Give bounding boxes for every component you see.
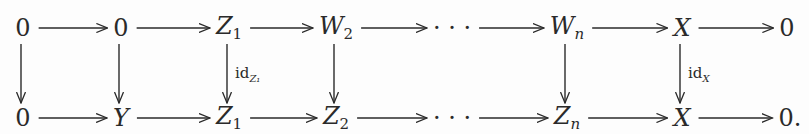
node-subscript: n [575, 25, 585, 43]
node-symbol: Z [323, 102, 340, 130]
node-symbol: · · · [433, 104, 471, 132]
node-symbol: 0 [779, 14, 794, 42]
node-symbol: 0 [15, 14, 30, 42]
diagram-node-b7: 0. [779, 106, 802, 130]
diagram-node-t0: 0 [15, 16, 30, 40]
node-symbol: · · · [433, 14, 471, 42]
node-symbol: Y [113, 104, 129, 132]
diagram-node-t3: W2 [319, 14, 353, 42]
diagram-node-b4: · · · [433, 106, 471, 130]
node-symbol: W [319, 12, 344, 40]
label-text: id [688, 64, 702, 82]
node-subscript: 2 [344, 25, 354, 43]
node-symbol: 0 [113, 14, 128, 42]
diagram-node-t1: 0 [113, 16, 128, 40]
diagram-node-b0: 0 [15, 106, 30, 130]
identity-label: idX [688, 66, 710, 84]
identity-label: idZ₁ [235, 66, 260, 84]
node-symbol: Z [216, 102, 233, 130]
node-symbol: 0 [15, 104, 30, 132]
node-subscript: n [571, 115, 581, 133]
node-subscript: 1 [233, 25, 243, 43]
node-symbol: 0. [779, 104, 802, 132]
node-subscript: 2 [340, 115, 350, 133]
diagram-node-t7: 0 [779, 16, 794, 40]
diagram-node-t2: Z1 [216, 14, 242, 42]
node-symbol: X [673, 14, 690, 42]
node-subscript: 1 [233, 115, 243, 133]
label-subscript: X [702, 73, 709, 84]
node-symbol: W [550, 12, 575, 40]
diagram-node-b5: Zn [554, 104, 580, 132]
diagram-node-b1: Y [113, 106, 129, 130]
diagram-node-b3: Z2 [323, 104, 349, 132]
label-subscript: Z₁ [249, 73, 260, 84]
node-symbol: Z [216, 12, 233, 40]
commutative-diagram: 00Z1W2· · ·WnX00YZ1Z2· · ·ZnX0.idZ₁idX [0, 0, 809, 134]
diagram-node-t5: Wn [550, 14, 584, 42]
diagram-node-t4: · · · [433, 16, 471, 40]
label-text: id [235, 64, 249, 82]
diagram-node-b2: Z1 [216, 104, 242, 132]
diagram-node-t6: X [673, 16, 690, 40]
node-symbol: Z [554, 102, 571, 130]
node-symbol: X [673, 104, 690, 132]
diagram-node-b6: X [673, 106, 690, 130]
